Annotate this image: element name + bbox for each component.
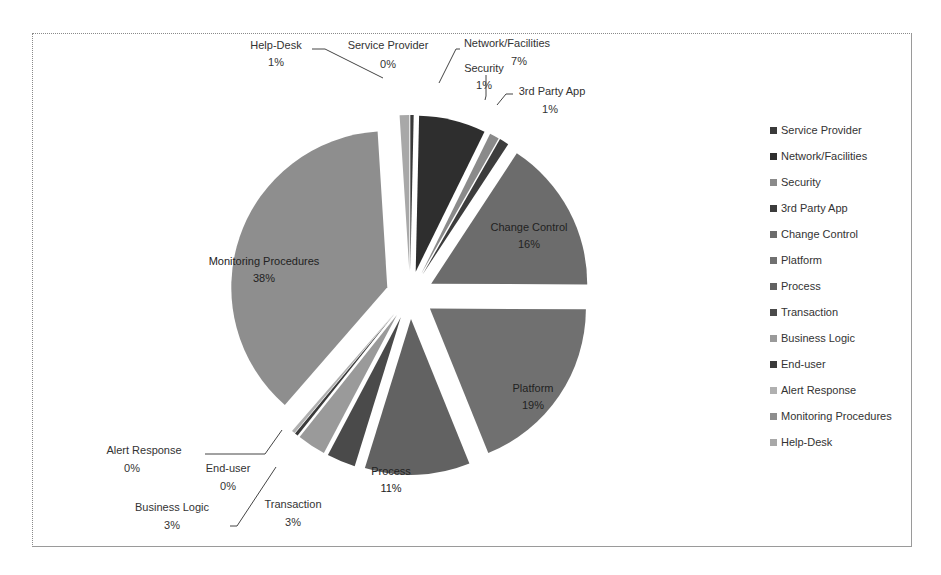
label-end-user-pct: 0% <box>220 480 236 492</box>
legend-item: Monitoring Procedures <box>770 403 892 429</box>
legend-item: Change Control <box>770 221 892 247</box>
label-security-name: Security <box>464 62 504 74</box>
legend-item: Service Provider <box>770 117 892 143</box>
legend-swatch-icon <box>770 387 777 394</box>
legend-item: Help-Desk <box>770 429 892 455</box>
legend-swatch-icon <box>770 309 777 316</box>
label-alert-response-pct: 0% <box>124 462 140 474</box>
legend-item: Alert Response <box>770 377 892 403</box>
label-process-name: Process <box>371 465 411 477</box>
legend-swatch-icon <box>770 439 777 446</box>
legend-swatch-icon <box>770 335 777 342</box>
label-security-pct: 1% <box>476 79 492 91</box>
legend-label: Process <box>781 280 821 292</box>
label-monitoring-name: Monitoring Procedures <box>209 255 320 267</box>
label-service-provider-pct: 0% <box>380 58 396 70</box>
pie-slice-service-provider <box>410 115 413 271</box>
label-help-desk-pct: 1% <box>268 56 284 68</box>
legend-label: Alert Response <box>781 384 856 396</box>
label-network-pct: 7% <box>511 55 527 67</box>
legend-item: Security <box>770 169 892 195</box>
legend-label: Platform <box>781 254 822 266</box>
label-network-name: Network/Facilities <box>464 37 551 49</box>
legend-label: 3rd Party App <box>781 202 848 214</box>
label-process-pct: 11% <box>380 482 401 494</box>
label-monitoring-pct: 38% <box>253 272 275 284</box>
label-third-party-pct: 1% <box>542 103 558 115</box>
legend-swatch-icon <box>770 231 777 238</box>
legend-item: Network/Facilities <box>770 143 892 169</box>
legend-label: End-user <box>781 358 826 370</box>
legend-swatch-icon <box>770 361 777 368</box>
legend-swatch-icon <box>770 257 777 264</box>
label-platform-pct: 19% <box>522 399 544 411</box>
label-end-user-name: End-user <box>206 462 251 474</box>
label-business-logic-name: Business Logic <box>135 501 209 513</box>
legend-label: Help-Desk <box>781 436 832 448</box>
legend-item: 3rd Party App <box>770 195 892 221</box>
label-help-desk-name: Help-Desk <box>250 39 302 51</box>
label-platform-name: Platform <box>513 382 554 394</box>
label-change-control-pct: 16% <box>518 238 540 250</box>
legend-label: Business Logic <box>781 332 855 344</box>
label-service-provider-name: Service Provider <box>348 39 429 51</box>
legend-swatch-icon <box>770 413 777 420</box>
label-alert-response-name: Alert Response <box>106 444 181 456</box>
legend-swatch-icon <box>770 179 777 186</box>
chart-legend: Service ProviderNetwork/FacilitiesSecuri… <box>770 117 892 455</box>
legend-item: Transaction <box>770 299 892 325</box>
pie-slice-help-desk <box>400 115 410 271</box>
label-business-logic-pct: 3% <box>164 519 180 531</box>
legend-label: Service Provider <box>781 124 862 136</box>
legend-label: Change Control <box>781 228 858 240</box>
legend-item: Process <box>770 273 892 299</box>
legend-label: Security <box>781 176 821 188</box>
legend-item: End-user <box>770 351 892 377</box>
label-transaction-pct: 3% <box>285 516 301 528</box>
legend-label: Monitoring Procedures <box>781 410 892 422</box>
legend-label: Transaction <box>781 306 838 318</box>
legend-swatch-icon <box>770 283 777 290</box>
label-transaction-name: Transaction <box>264 498 321 510</box>
pie-slices <box>231 115 587 475</box>
legend-swatch-icon <box>770 153 777 160</box>
legend-swatch-icon <box>770 127 777 134</box>
legend-item: Platform <box>770 247 892 273</box>
legend-label: Network/Facilities <box>781 150 867 162</box>
legend-item: Business Logic <box>770 325 892 351</box>
legend-swatch-icon <box>770 205 777 212</box>
label-change-control-name: Change Control <box>490 221 567 233</box>
label-third-party-name: 3rd Party App <box>519 85 586 97</box>
